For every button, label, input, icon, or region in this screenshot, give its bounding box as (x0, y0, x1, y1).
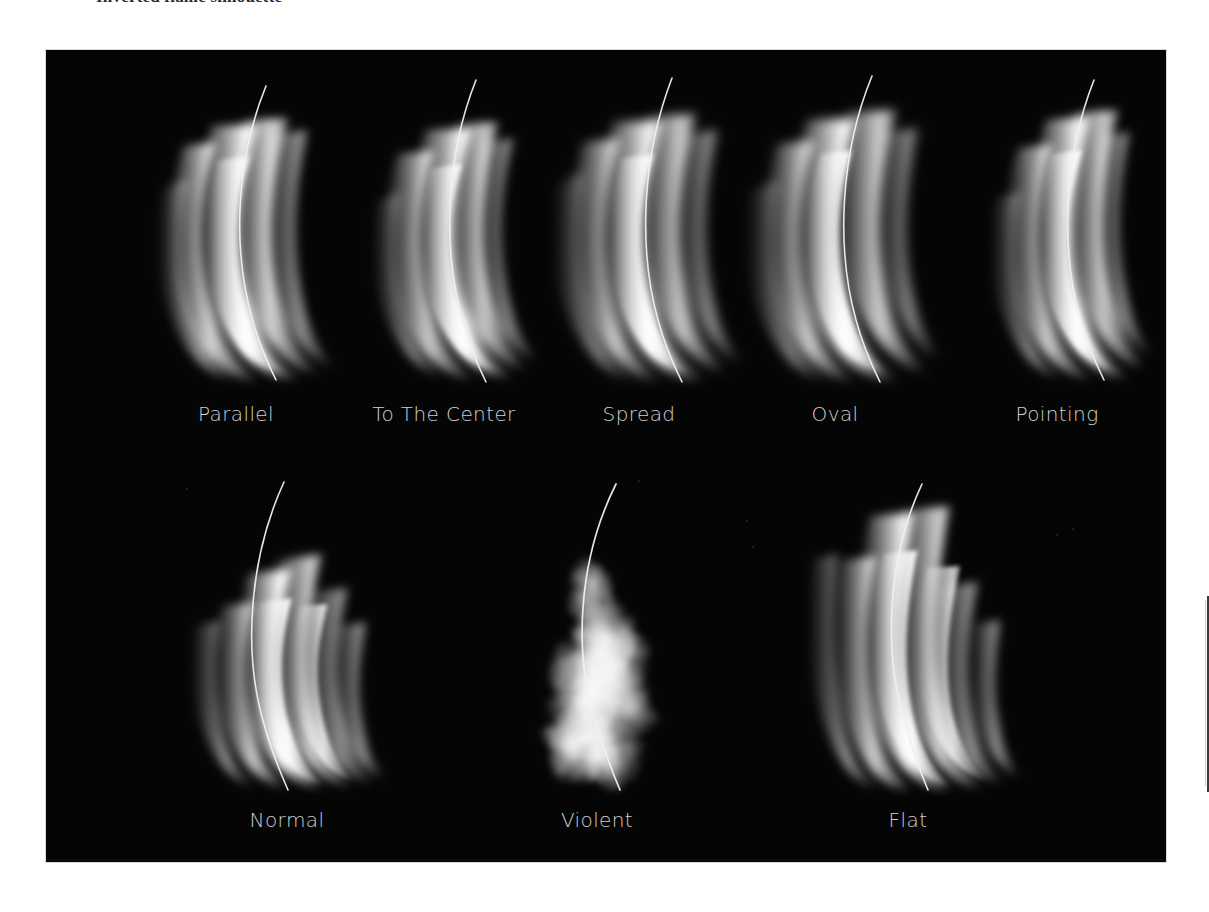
flame-figure-oval (722, 50, 948, 390)
flame-label-to-the-center: To The Center (334, 402, 554, 426)
flame-cell-parallel: Parallel (126, 50, 346, 456)
flame-label-violent: Violent (492, 808, 702, 832)
flame-label-oval: Oval (722, 402, 948, 426)
figure-panel: Parallel (46, 50, 1166, 862)
flame-label-spread: Spread (526, 402, 752, 426)
flame-figure-normal (172, 456, 402, 796)
flame-cell-violent: Violent (492, 456, 702, 862)
flame-cell-spread: Spread (526, 50, 752, 456)
flame-label-parallel: Parallel (126, 402, 346, 426)
page-edge-sliver-secondary (1205, 600, 1206, 786)
flame-label-pointing: Pointing (952, 402, 1162, 426)
flame-label-normal: Normal (172, 808, 402, 832)
flame-cell-to-the-center: To The Center (334, 50, 554, 456)
flame-row-1: Parallel (46, 50, 1166, 456)
flame-figure-spread (526, 50, 752, 390)
flame-figure-violent (492, 456, 702, 796)
flame-figure-pointing (952, 50, 1162, 390)
page-caption: Inverted flame silhouette (96, 0, 282, 7)
flame-label-flat: Flat (788, 808, 1028, 832)
flame-cell-normal: Normal (172, 456, 402, 862)
flame-row-2: Normal (46, 456, 1166, 862)
flame-cell-flat: Flat (788, 456, 1028, 862)
flame-figure-to-the-center (334, 50, 554, 390)
flame-cell-pointing: Pointing (952, 50, 1162, 456)
flame-figure-parallel (126, 50, 346, 390)
flame-cell-oval: Oval (722, 50, 948, 456)
flame-figure-flat (788, 456, 1028, 796)
